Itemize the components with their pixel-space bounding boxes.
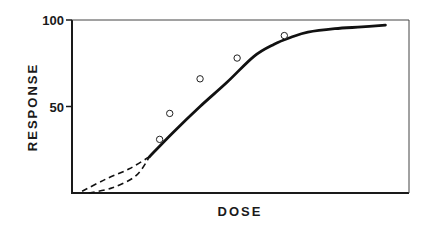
plot-frame xyxy=(71,20,409,193)
chart-series xyxy=(82,25,385,193)
data-point-marker xyxy=(234,55,240,61)
y-axis-label: RESPONSE xyxy=(25,63,40,151)
extrapolated-dashed-curve xyxy=(82,157,149,192)
y-tick-label: 50 xyxy=(50,100,64,115)
y-axis-ticks: 50100 xyxy=(42,13,72,115)
dose-response-chart: 50100 RESPONSE DOSE xyxy=(0,0,429,226)
data-point-marker xyxy=(281,32,287,38)
data-point-marker xyxy=(197,76,203,82)
data-point-marker xyxy=(156,136,162,142)
data-point-marker xyxy=(167,110,173,116)
x-axis-label: DOSE xyxy=(218,204,263,219)
y-tick-label: 100 xyxy=(42,13,64,28)
fitted-curve xyxy=(150,25,386,156)
